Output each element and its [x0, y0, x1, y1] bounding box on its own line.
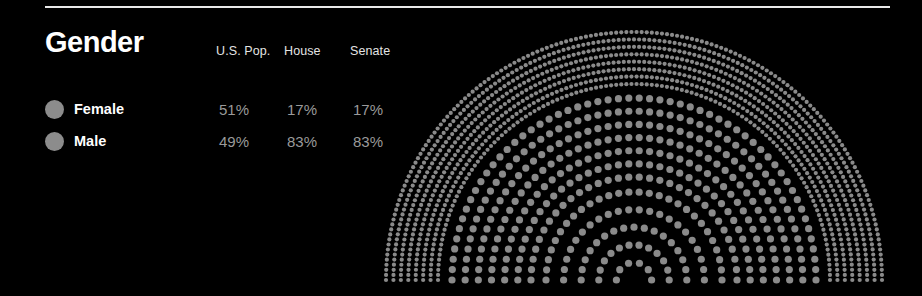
value-female-us-pop: 51% — [219, 100, 249, 119]
column-header-us-pop: U.S. Pop. — [216, 44, 270, 58]
value-male-senate: 83% — [353, 132, 383, 151]
legend-swatch-female — [45, 100, 64, 119]
legend-label-female: Female — [74, 100, 124, 119]
column-header-house: House — [284, 44, 321, 58]
page-title: Gender — [45, 28, 144, 57]
legend-swatch-male — [45, 132, 64, 151]
legend-label-male: Male — [74, 132, 106, 151]
value-male-house: 83% — [287, 132, 317, 151]
value-female-senate: 17% — [353, 100, 383, 119]
legend-panel: Gender U.S. Pop. House Senate Female 51%… — [0, 0, 420, 296]
value-female-house: 17% — [287, 100, 317, 119]
value-male-us-pop: 49% — [219, 132, 249, 151]
dot-arc-svg — [380, 10, 910, 296]
gender-infographic-panel: Gender U.S. Pop. House Senate Female 51%… — [0, 0, 922, 296]
semicircle-dot-chart — [380, 10, 910, 296]
